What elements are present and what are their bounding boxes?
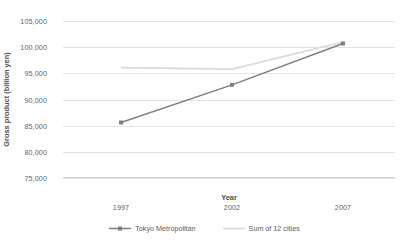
y-axis-tick-label: 75,000 xyxy=(0,174,47,183)
x-axis-tick-label: 2002 xyxy=(202,203,262,212)
y-axis-tick-label: 100,000 xyxy=(0,43,47,52)
y-axis-tick-label: 95,000 xyxy=(0,69,47,78)
legend-swatch-icon xyxy=(108,224,132,233)
x-axis-tick-label: 2007 xyxy=(313,203,373,212)
y-axis-tick-label: 85,000 xyxy=(0,121,47,130)
x-axis-tick-label: 1997 xyxy=(91,203,151,212)
x-axis-title: Year xyxy=(63,193,395,202)
plot-area: 105,000100,00095,00090,00085,00080,00075… xyxy=(63,21,395,178)
chart-legend: Tokyo MetropolitanSum of 12 cities xyxy=(0,224,408,233)
data-point-marker xyxy=(119,121,123,125)
legend-item[interactable]: Sum of 12 cities xyxy=(222,224,300,233)
series-lines xyxy=(63,21,395,178)
legend-item-label: Sum of 12 cities xyxy=(249,224,300,233)
gridline xyxy=(63,178,395,179)
y-axis-tick-label: 105,000 xyxy=(0,17,47,26)
legend-swatch-icon xyxy=(222,224,246,233)
y-axis-tick-label: 90,000 xyxy=(0,95,47,104)
legend-item[interactable]: Tokyo Metropolitan xyxy=(108,224,195,233)
data-point-marker xyxy=(341,42,345,46)
line-chart: Gross product (billion yen) 105,000100,0… xyxy=(0,0,408,249)
y-axis-tick-label: 80,000 xyxy=(0,147,47,156)
data-point-marker xyxy=(230,83,234,87)
legend-item-label: Tokyo Metropolitan xyxy=(135,224,195,233)
